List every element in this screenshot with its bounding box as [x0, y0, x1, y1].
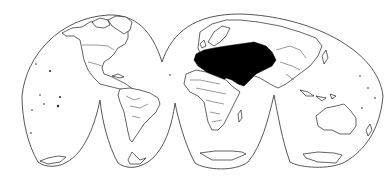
world-map: [0, 0, 388, 178]
